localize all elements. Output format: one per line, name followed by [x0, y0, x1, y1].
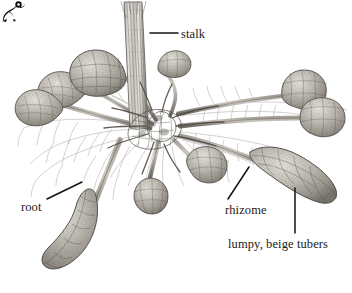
label-root: root [21, 200, 42, 215]
tuber [250, 147, 337, 203]
illustration-figure: stalk root rhizome lumpy, beige tubers [0, 0, 352, 293]
corner-flourish-icon [1, 1, 27, 23]
tuber [300, 97, 347, 138]
label-tubers: lumpy, beige tubers [228, 237, 328, 252]
tuber [134, 178, 168, 214]
leader-rhizome [228, 167, 249, 199]
leader-root [47, 182, 82, 199]
label-rhizome: rhizome [225, 203, 267, 218]
tuber [158, 50, 192, 78]
tuber [42, 189, 98, 269]
tuber [70, 50, 126, 96]
label-stalk: stalk [181, 27, 205, 42]
